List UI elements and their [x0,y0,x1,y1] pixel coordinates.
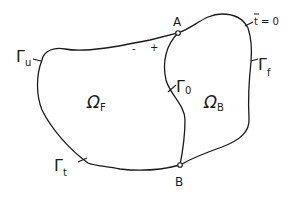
omega-f-label: ΩF [86,92,106,113]
gamma-u-leader [33,59,41,61]
traction-condition: t= 0 [254,16,279,27]
interface-gamma-0 [165,33,186,165]
omega-b-label: ΩB [203,92,224,113]
minus-sign: - [132,43,136,54]
domain-diagram: Γu Γt Γf Γ0 ΩF ΩB A B - + t= 0 [0,0,295,197]
plus-sign: + [150,42,158,53]
gamma-0-label: Γ0 [176,77,191,96]
point-b-label: B [175,175,183,189]
gamma-u-label: Γu [16,47,31,68]
point-a-label: A [173,15,182,29]
gamma-f-leader [251,59,258,61]
gamma-t-label: Γt [54,156,67,178]
point-b-marker [178,163,183,168]
gamma-f-label: Γf [258,55,271,78]
outer-boundary [38,14,252,170]
point-a-marker [176,31,181,36]
